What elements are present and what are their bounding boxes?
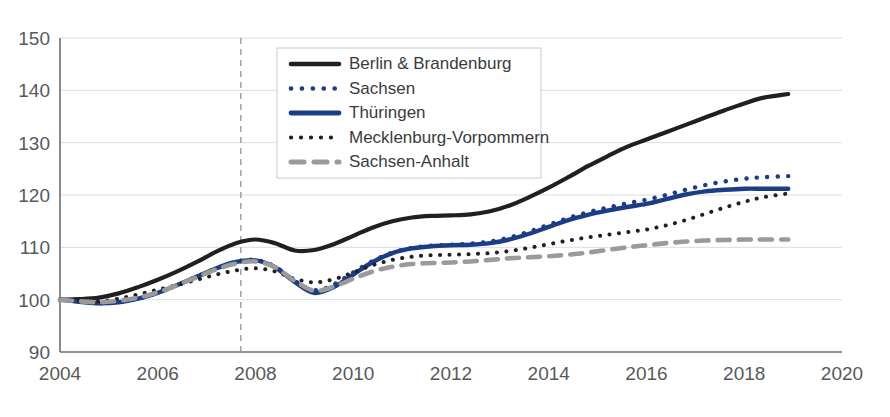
y-tick-label: 100 — [18, 290, 50, 311]
chart-legend: Berlin & BrandenburgSachsenThüringenMeck… — [277, 48, 549, 178]
x-tick-label: 2014 — [528, 363, 571, 384]
legend-label: Sachsen — [349, 79, 415, 98]
x-tick-label: 2004 — [39, 363, 82, 384]
x-tick-label: 2010 — [332, 363, 374, 384]
y-tick-label: 140 — [18, 80, 50, 101]
chart-container: 90100110120130140150 2004200620082010201… — [0, 0, 890, 417]
legend-label: Sachsen-Anhalt — [349, 152, 469, 171]
x-tick-label: 2018 — [723, 363, 765, 384]
line-chart: 90100110120130140150 2004200620082010201… — [0, 0, 890, 417]
y-tick-label: 150 — [18, 28, 50, 49]
x-tick-label: 2006 — [137, 363, 179, 384]
x-tick-label: 2012 — [430, 363, 472, 384]
x-axis-tick-labels: 200420062008201020122014201620182020 — [39, 363, 863, 384]
x-tick-label: 2008 — [234, 363, 276, 384]
y-tick-label: 130 — [18, 133, 50, 154]
x-tick-label: 2016 — [625, 363, 667, 384]
y-tick-label: 110 — [20, 237, 50, 258]
x-tick-label: 2020 — [821, 363, 863, 384]
legend-label: Mecklenburg-Vorpommern — [349, 128, 549, 147]
y-tick-label: 90 — [29, 342, 50, 363]
y-axis-tick-labels: 90100110120130140150 — [18, 28, 50, 363]
legend-label: Berlin & Brandenburg — [349, 54, 512, 73]
y-tick-label: 120 — [18, 185, 50, 206]
legend-label: Thüringen — [349, 103, 426, 122]
